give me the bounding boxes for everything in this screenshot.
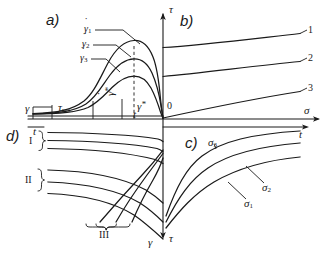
leader-gamma-dot-3	[91, 59, 120, 72]
gamma-dot-star-asterisk: *	[103, 87, 113, 92]
line-label-2: 2	[308, 53, 313, 63]
line-label-1: 1	[308, 25, 313, 35]
group-label-III: III	[99, 230, 109, 240]
leader-b-1	[300, 30, 307, 34]
bracket-II	[38, 169, 45, 191]
curve-d-III-1	[100, 150, 163, 222]
bracket-I	[39, 131, 46, 151]
axis-label-origin: 0	[167, 101, 172, 111]
line-label-3: 3	[308, 83, 313, 93]
leader-b-2	[300, 58, 307, 62]
axis-label-gamma-bottom: γ	[148, 237, 152, 248]
gamma-dot-2-subscript: 2	[86, 42, 90, 50]
annotation-gamma-star: γ*	[137, 100, 146, 112]
curve-sigma-1	[166, 157, 300, 228]
curve-sigma-2	[166, 143, 300, 222]
leader-gamma-dot-1	[95, 30, 140, 44]
line-b-2	[163, 62, 300, 77]
figure-canvas: a) b) c) d) τ σ t t t γ γ τ 0 γ1 γ2 γ3 τ…	[0, 0, 330, 262]
leader-b-3	[300, 88, 307, 92]
axis-label-t-right: t	[299, 129, 302, 140]
line-b-3	[163, 92, 300, 119]
panel-d-curves	[48, 133, 163, 240]
panel-d-brackets	[38, 131, 130, 230]
panel-label-c: c)	[185, 135, 198, 150]
annotation-gamma-dot-star: γ*	[104, 87, 116, 96]
curve-label-sigma-3: σ3	[208, 137, 217, 149]
curve-d-I-2	[48, 141, 163, 152]
curve-d-I-1	[48, 133, 163, 142]
axis-label-tau-up: τ	[169, 4, 173, 15]
panel-b-lines	[163, 34, 300, 119]
bracket-III-right	[106, 224, 130, 230]
axis-label-t-upper-left: t	[133, 109, 136, 120]
gamma-star-asterisk: *	[141, 99, 146, 109]
panel-c-leader-lines	[214, 144, 264, 199]
axis-label-t-lower-left: t	[33, 126, 36, 137]
curve-d-III-2	[116, 154, 163, 223]
curve-d-II-1	[48, 170, 163, 203]
curve-d-I-3	[48, 149, 163, 164]
panel-label-a: a)	[46, 12, 59, 27]
group-label-II: II	[25, 175, 32, 185]
panel-label-d: d)	[6, 128, 19, 143]
curve-label-sigma-1: σ1	[244, 198, 253, 210]
gamma-dot-3-subscript: 3	[84, 56, 88, 64]
gamma-dot-star-symbol: γ	[104, 92, 116, 96]
line-b-1	[163, 34, 300, 48]
axis-label-tau-bottom: τ	[169, 233, 173, 244]
sigma-1-subscript: 1	[249, 202, 253, 210]
tau-res-subscript: res	[62, 106, 70, 114]
panel-label-b: b)	[180, 13, 193, 28]
annotation-tau-res: τres	[58, 102, 70, 114]
axis-label-sigma: σ	[304, 105, 309, 116]
gamma-dot-3-symbol: γ	[80, 52, 84, 63]
sigma-2-subscript: 2	[267, 186, 271, 194]
sigma-3-subscript: 3	[213, 141, 217, 149]
group-label-I: I	[29, 136, 32, 146]
axis-label-gamma-left: γ	[25, 103, 29, 114]
curve-label-sigma-2: σ2	[262, 182, 271, 194]
gamma-dot-1-subscript: 1	[88, 27, 92, 35]
panel-b-leader-lines	[300, 30, 307, 92]
curve-label-gamma-dot-3: γ3	[80, 53, 87, 64]
figure-vector-layer	[0, 0, 330, 262]
